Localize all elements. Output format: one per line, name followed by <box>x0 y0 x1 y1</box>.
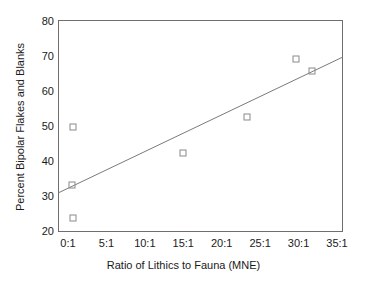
plot-area <box>58 20 343 232</box>
x-axis-tick-label: 20:1 <box>211 237 232 249</box>
x-axis-tick-label: 30:1 <box>288 237 309 249</box>
y-axis-title: Percent Bipolar Flakes and Blanks <box>14 21 26 233</box>
y-axis-tick-label: 80 <box>30 16 54 27</box>
data-point-marker <box>69 215 76 222</box>
data-point-marker <box>309 67 316 74</box>
data-point-marker <box>293 55 300 62</box>
x-axis-tick-label: 15:1 <box>173 237 194 249</box>
y-axis-tick-label: 60 <box>30 86 54 97</box>
x-axis-tick-label: 25:1 <box>249 237 270 249</box>
x-axis-title: Ratio of Lithics to Fauna (MNE) <box>0 259 367 271</box>
x-axis-tick-label: 35:1 <box>326 237 347 249</box>
y-axis-tick-label: 40 <box>30 156 54 167</box>
x-axis-tick-label: 10:1 <box>134 237 155 249</box>
scatter-chart: 20304050607080 0:15:110:115:120:125:130:… <box>0 0 367 285</box>
y-axis-tick-label: 70 <box>30 51 54 62</box>
data-point-marker <box>180 149 187 156</box>
data-point-marker <box>244 113 251 120</box>
x-axis-tick-label: 5:1 <box>99 237 114 249</box>
y-axis-tick-label: 20 <box>30 226 54 237</box>
x-axis-tick-label: 0:1 <box>60 237 75 249</box>
data-point-marker <box>68 182 75 189</box>
data-point-marker <box>69 123 76 130</box>
y-axis-tick-label: 50 <box>30 121 54 132</box>
x-axis-tick-labels: 0:15:110:115:120:125:130:135:1 <box>0 237 367 253</box>
y-axis-tick-label: 30 <box>30 191 54 202</box>
